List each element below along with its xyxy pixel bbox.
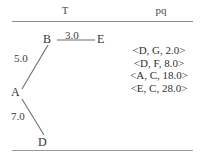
vertex-a: A [11, 86, 20, 99]
graph-algorithm-figure: T pq B E A D 5.0 3.0 7.0 <D, G, 2.0> <D,… [0, 0, 203, 161]
pq-entry: <D, F, 8.0> [116, 57, 202, 70]
pq-entry: <A, C, 18.0> [116, 69, 202, 82]
priority-queue-list: <D, G, 2.0> <D, F, 8.0> <A, C, 18.0> <E,… [116, 44, 202, 94]
edge-weight-a-b: 5.0 [14, 52, 28, 64]
edge-weight-b-e: 3.0 [65, 29, 79, 41]
vertex-b: B [43, 33, 51, 46]
edge-a-d [22, 99, 44, 135]
pq-entry: <D, G, 2.0> [116, 44, 202, 57]
vertex-e: E [97, 33, 104, 46]
edge-weight-a-d: 7.0 [11, 110, 25, 122]
vertex-d: D [38, 136, 47, 149]
pq-entry: <E, C, 28.0> [116, 82, 202, 95]
